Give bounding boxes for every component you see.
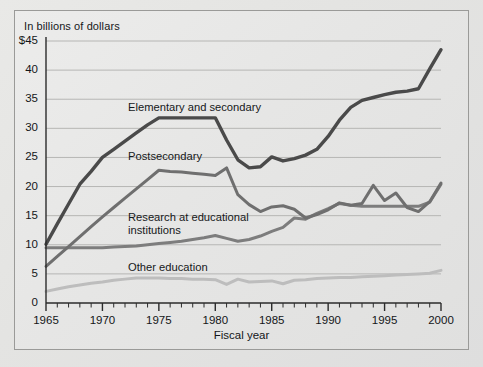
chart-canvas [0,0,483,367]
series-label-research-line2: institutions [128,224,181,236]
x-tick-label: 1965 [23,314,69,326]
x-tick-label: 1975 [136,314,182,326]
x-tick-label: 1990 [305,314,351,326]
y-tick-label: 30 [4,121,38,133]
x-axis-title: Fiscal year [0,329,483,341]
series-lines [46,50,441,292]
x-major-ticks [46,303,441,311]
chart-figure: In billions of dollars $4540353025201510… [0,0,483,367]
x-tick-label: 1980 [192,314,238,326]
y-tick-label: 10 [4,238,38,250]
y-tick-label: 35 [4,92,38,104]
y-tick-label: 0 [4,296,38,308]
x-tick-label: 2000 [418,314,464,326]
y-tick-label: 15 [4,209,38,221]
series-label-elementary: Elementary and secondary [128,101,261,114]
series-label-research-line1: Research at educational [128,211,249,223]
series-label-postsecondary: Postsecondary [128,150,202,163]
y-tick-label: 5 [4,267,38,279]
x-tick-label: 1970 [79,314,125,326]
axis-lines [46,37,441,303]
y-tick-label: $45 [4,34,38,46]
x-tick-label: 1995 [362,314,408,326]
y-tick-label: 25 [4,150,38,162]
y-tick-label: 40 [4,63,38,75]
y-tick-label: 20 [4,180,38,192]
x-tick-label: 1985 [249,314,295,326]
series-label-other: Other education [128,261,208,274]
series-label-research: Research at educational institutions [128,211,249,237]
